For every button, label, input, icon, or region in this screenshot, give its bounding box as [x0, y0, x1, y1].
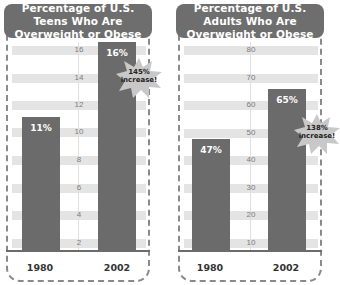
y-tick-label: 30	[240, 183, 262, 192]
teens-chart-title: Percentage of U.S. Teens Who Are Overwei…	[4, 4, 152, 38]
y-tick-label: 6	[68, 183, 90, 192]
y-tick-label: 16	[68, 45, 90, 54]
bar-value-label: 65%	[268, 95, 306, 105]
x-axis-line	[178, 250, 322, 252]
adults-chart-title: Percentage of U.S. Adults Who Are Overwe…	[176, 4, 324, 38]
x-tick-label: 1980	[180, 262, 240, 273]
x-tick-label: 2002	[87, 262, 147, 273]
y-tick-label: 80	[240, 45, 262, 54]
teens-chart-panel: Percentage of U.S. Teens Who Are Overwei…	[2, 0, 154, 285]
bar-1980: 11%	[22, 117, 60, 250]
y-tick-label: 8	[68, 155, 90, 164]
y-tick-label: 14	[68, 73, 90, 82]
y-tick-label: 60	[240, 100, 262, 109]
x-tick-label: 2002	[256, 262, 316, 273]
increase-starburst: 145% increase!	[116, 58, 162, 98]
x-axis-line	[6, 250, 150, 252]
adults-chart-panel: Percentage of U.S. Adults Who Are Overwe…	[174, 0, 326, 285]
y-tick-label: 10	[68, 127, 90, 136]
bar-value-label: 47%	[192, 145, 230, 155]
increase-starburst: 138% increase!	[294, 114, 340, 154]
y-tick-label: 50	[240, 128, 262, 137]
x-tick-label: 1980	[10, 262, 70, 273]
bar-value-label: 16%	[98, 48, 136, 58]
y-tick-label: 20	[240, 210, 262, 219]
y-tick-label: 10	[240, 238, 262, 247]
y-tick-label: 40	[240, 155, 262, 164]
increase-annotation: 145% increase!	[116, 68, 162, 84]
y-tick-label: 2	[68, 238, 90, 247]
y-tick-label: 12	[68, 100, 90, 109]
bar-1980: 47%	[192, 139, 230, 250]
y-tick-label: 70	[240, 73, 262, 82]
y-tick-label: 4	[68, 210, 90, 219]
increase-annotation: 138% increase!	[294, 124, 340, 140]
bar-value-label: 11%	[22, 123, 60, 133]
